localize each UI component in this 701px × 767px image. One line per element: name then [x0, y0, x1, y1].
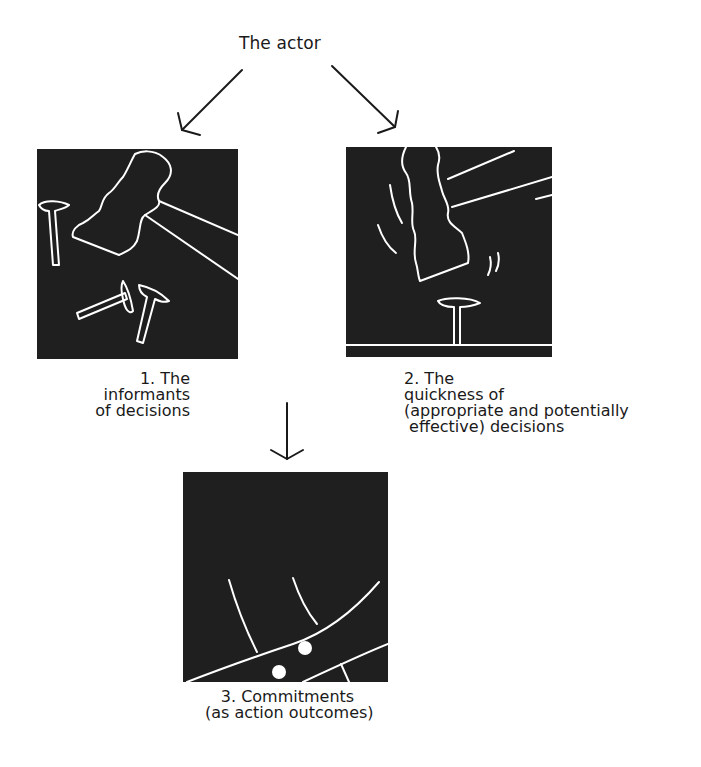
caption-line: (as action outcomes) [205, 705, 370, 721]
panel-2-caption: 2. The quickness of (appropriate and pot… [404, 371, 629, 435]
panel-2-hammer-striking [346, 147, 552, 357]
nail-driven-illustration [183, 472, 388, 682]
caption-line: of decisions [30, 403, 190, 419]
nail-head-dot-icon [298, 641, 312, 655]
nail-head-dot-icon [272, 665, 286, 679]
panel-1-caption: 1. The informants of decisions [30, 371, 190, 419]
hammer-strike-illustration [346, 147, 552, 357]
panel-1-hammer-and-nails [37, 149, 238, 359]
hammer-nails-illustration [37, 149, 238, 359]
arrow-down-right-icon [332, 66, 398, 133]
panel-3-caption: 3. Commitments (as action outcomes) [205, 689, 370, 721]
arrow-down-left-icon [178, 70, 242, 135]
caption-line: effective) decisions [404, 419, 629, 435]
panel-3-nail-driven [183, 472, 388, 682]
arrow-down-icon [271, 403, 303, 459]
